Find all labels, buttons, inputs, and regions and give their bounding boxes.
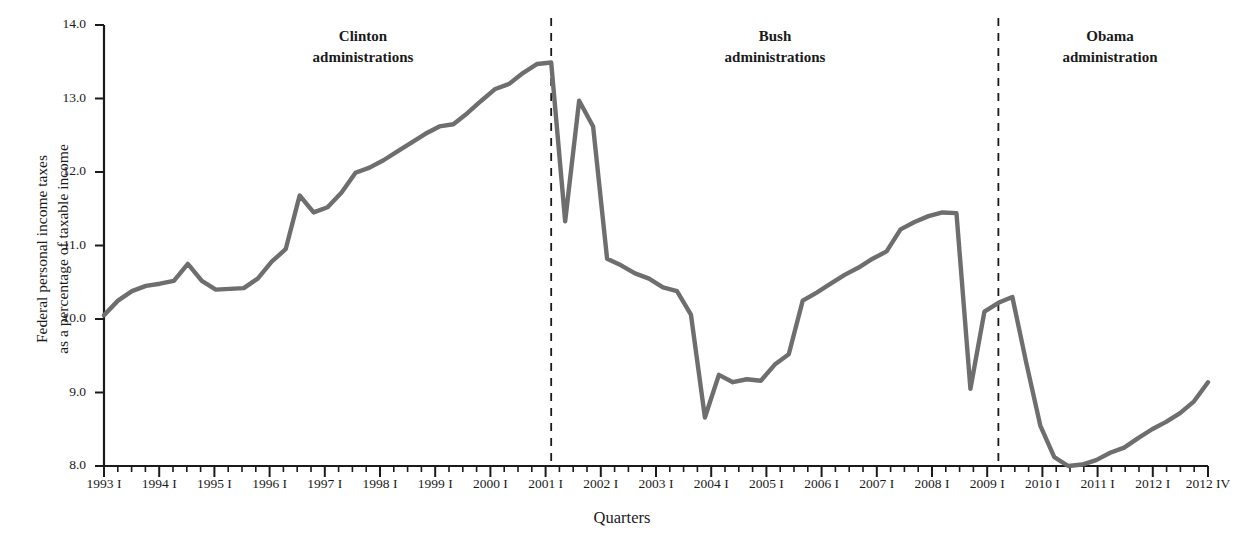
line-chart-plot — [0, 0, 1244, 546]
y-tick-label: 10.0 — [40, 310, 86, 326]
y-tick-label: 14.0 — [40, 16, 86, 32]
y-tick-label: 12.0 — [40, 163, 86, 179]
y-tick-label: 8.0 — [40, 457, 86, 473]
era-label-clinton: Clinton administrations — [198, 26, 528, 68]
tax-rate-series — [104, 62, 1208, 466]
chart-figure: Federal personal income taxes as a perce… — [0, 0, 1244, 546]
x-tick-label: 2012 IV — [1173, 476, 1243, 492]
chart-axes — [95, 25, 1208, 477]
y-tick-label: 9.0 — [40, 384, 86, 400]
era-label-bush: Bush administrations — [610, 26, 940, 68]
y-tick-label: 13.0 — [40, 90, 86, 106]
y-tick-label: 11.0 — [40, 237, 86, 253]
administration-dividers — [551, 18, 998, 466]
era-label-obama: Obama administration — [1000, 26, 1220, 68]
x-axis-title: Quarters — [0, 508, 1244, 528]
